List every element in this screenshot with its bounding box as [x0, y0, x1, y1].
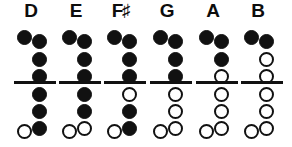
hole-1-closed — [259, 34, 274, 49]
pinky-hole-open — [199, 124, 214, 139]
fingering-column-g: G — [150, 0, 198, 147]
hand-divider-line — [104, 81, 146, 84]
hole-2-closed — [77, 52, 92, 67]
hole-1-closed — [214, 34, 229, 49]
hand-divider-line — [241, 81, 283, 84]
thumb-hole-closed — [153, 30, 168, 45]
hole-1-closed — [122, 34, 137, 49]
hole-4-closed — [32, 87, 47, 102]
hole-5-open — [214, 104, 229, 119]
hand-divider-line — [196, 81, 238, 84]
note-letter: E — [70, 0, 82, 21]
hole-6-closed — [32, 121, 47, 136]
note-letter: B — [251, 0, 264, 21]
note-label: G — [150, 1, 184, 21]
hand-divider-line — [14, 81, 56, 84]
pinky-hole-open — [17, 124, 32, 139]
note-letter: D — [24, 0, 37, 21]
hole-6-open — [259, 121, 274, 136]
thumb-hole-closed — [62, 30, 77, 45]
hole-2-closed — [168, 52, 183, 67]
note-label: E — [59, 1, 93, 21]
pinky-hole-open — [62, 124, 77, 139]
hole-5-open — [259, 104, 274, 119]
hole-2-closed — [214, 52, 229, 67]
note-letter: A — [206, 0, 219, 21]
hole-4-open — [259, 87, 274, 102]
sharp-icon: ♯ — [122, 1, 130, 20]
note-label: D — [14, 1, 48, 21]
hand-divider-line — [150, 81, 192, 84]
fingering-column-e: E — [59, 0, 107, 147]
hole-2-open — [259, 52, 274, 67]
hole-6-open — [77, 121, 92, 136]
note-label: F♯ — [104, 1, 138, 21]
hole-5-closed — [77, 104, 92, 119]
hole-1-closed — [168, 34, 183, 49]
note-label: B — [241, 1, 275, 21]
hand-divider-line — [59, 81, 101, 84]
fingering-chart: DEF♯GAB — [0, 0, 292, 147]
hole-6-open — [214, 121, 229, 136]
hole-5-open — [168, 104, 183, 119]
thumb-hole-closed — [244, 30, 259, 45]
pinky-hole-open — [153, 124, 168, 139]
hole-4-open — [214, 87, 229, 102]
hole-6-closed — [122, 121, 137, 136]
fingering-column-d: D — [14, 0, 62, 147]
hole-4-closed — [77, 87, 92, 102]
note-label: A — [196, 1, 230, 21]
pinky-hole-open — [244, 124, 259, 139]
hole-5-closed — [122, 104, 137, 119]
hole-1-closed — [77, 34, 92, 49]
hole-5-closed — [32, 104, 47, 119]
hole-6-open — [168, 121, 183, 136]
hole-4-open — [168, 87, 183, 102]
fingering-column-f-sharp: F♯ — [104, 0, 152, 147]
note-letter: G — [160, 0, 174, 21]
hole-1-closed — [32, 34, 47, 49]
thumb-hole-closed — [17, 30, 32, 45]
pinky-hole-open — [107, 124, 122, 139]
thumb-hole-closed — [199, 30, 214, 45]
fingering-column-a: A — [196, 0, 244, 147]
fingering-column-b: B — [241, 0, 289, 147]
hole-4-open — [122, 87, 137, 102]
thumb-hole-closed — [107, 30, 122, 45]
hole-2-closed — [122, 52, 137, 67]
hole-2-closed — [32, 52, 47, 67]
